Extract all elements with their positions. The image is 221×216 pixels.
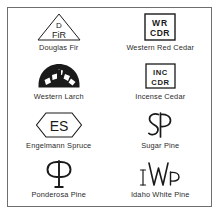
species-cell-idaho-white-pine: Idaho White Pine <box>110 157 212 206</box>
species-label: Ponderosa Pine <box>31 190 86 199</box>
species-label: Idaho White Pine <box>131 190 190 199</box>
svg-text:CDR: CDR <box>150 28 170 38</box>
monogram-iwp-icon <box>139 159 181 189</box>
svg-text:D: D <box>56 21 62 30</box>
species-symbols-panel: D FiR Douglas Fir WR CDR Western Red Ced… <box>7 7 212 207</box>
svg-text:ES: ES <box>49 118 68 134</box>
svg-text:INC: INC <box>153 68 168 77</box>
species-cell-engelmann-spruce: ES Engelmann Spruce <box>8 108 110 157</box>
species-symbols-grid: D FiR Douglas Fir WR CDR Western Red Ced… <box>8 10 211 206</box>
species-label: Incense Cedar <box>135 92 185 101</box>
svg-text:CDR: CDR <box>151 78 169 87</box>
svg-text:WR: WR <box>152 18 168 28</box>
species-cell-incense-cedar: INC CDR Incense Cedar <box>110 59 212 108</box>
species-cell-sugar-pine: Sugar Pine <box>110 108 212 157</box>
species-cell-ponderosa-pine: Ponderosa Pine <box>8 157 110 206</box>
box-inc-cdr-icon: INC CDR <box>144 61 177 91</box>
species-label: Western Red Cedar <box>126 43 194 52</box>
species-label: Douglas Fir <box>39 43 78 52</box>
species-label: Sugar Pine <box>141 141 179 150</box>
species-cell-western-red-cedar: WR CDR Western Red Cedar <box>110 10 212 59</box>
monogram-sp-icon <box>147 110 173 140</box>
species-cell-douglas-fir: D FiR Douglas Fir <box>8 10 110 59</box>
species-label: Engelmann Spruce <box>26 141 91 150</box>
svg-text:FiR: FiR <box>52 30 66 40</box>
species-cell-western-larch: Western Larch <box>8 59 110 108</box>
arch-l-icon <box>37 61 81 91</box>
hexagon-es-icon: ES <box>35 110 83 140</box>
box-wr-cdr-icon: WR CDR <box>143 12 177 42</box>
monogram-pp-icon <box>45 159 73 189</box>
species-label: Western Larch <box>34 92 84 101</box>
triangle-d-fir-icon: D FiR <box>36 12 82 42</box>
